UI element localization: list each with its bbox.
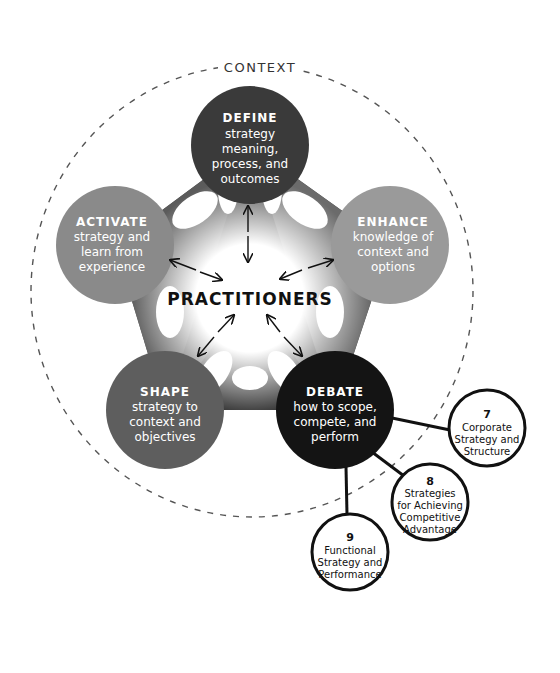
shape-line: objectives [134,430,195,444]
chapter-9-line: Performance [318,569,381,580]
shape-line: strategy to [132,400,198,414]
chapter-7-number: 7 [483,408,491,421]
debate-line: perform [311,430,359,444]
shape-line: context and [129,415,201,429]
define-title: DEFINE [222,111,277,125]
chapter-7-line: Strategy and [455,434,520,445]
activate-line: learn from [81,245,143,259]
chapter-7-line: Structure [464,446,511,457]
shape-title: SHAPE [140,385,190,399]
chapter-8-line: Competitive [400,512,461,523]
chapter-9-line: Functional [324,545,375,556]
chapter-8-line: Strategies [404,488,455,499]
center-label: PRACTITIONERS [167,289,333,309]
chapter-9[interactable]: 9 Functional Strategy and Performance [312,514,388,590]
define-line: outcomes [221,172,280,186]
enhance-title: ENHANCE [357,215,429,229]
define-line: strategy [225,127,275,141]
activate-title: ACTIVATE [76,215,148,229]
enhance-line: options [371,260,415,274]
enhance-line: knowledge of [353,230,434,244]
enhance-line: context and [357,245,429,259]
chapter-8-line: for Achieving [397,500,463,511]
context-label: CONTEXT [224,60,296,75]
debate-line: how to scope, [293,400,376,414]
practitioners-diagram: CONTEXT DEFINE strategy meaning, process… [0,0,560,673]
chapter-7[interactable]: 7 Corporate Strategy and Structure [449,390,525,466]
chapter-7-line: Corporate [462,422,512,433]
chapter-8[interactable]: 8 Strategies for Achieving Competitive A… [392,464,468,540]
activate-line: experience [79,260,146,274]
chapter-9-number: 9 [346,531,354,544]
chapter-8-line: Advantage [403,524,457,535]
debate-line: compete, and [294,415,377,429]
define-line: process, and [212,157,288,171]
activate-line: strategy and [74,230,150,244]
chapter-9-line: Strategy and [318,557,383,568]
define-line: meaning, [222,142,278,156]
chapter-8-number: 8 [426,475,434,488]
debate-title: DEBATE [306,385,364,399]
